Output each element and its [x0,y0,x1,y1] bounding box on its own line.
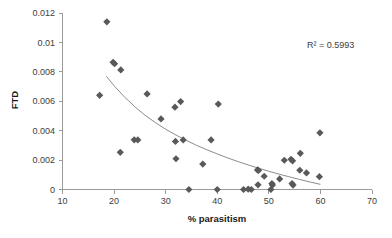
x-tick-label: 60 [315,196,325,206]
data-point [172,155,179,162]
y-tick-label: 0 [50,185,55,195]
trend-line [106,76,320,184]
y-tick-label-group: 00.0020.0040.0060.0080.010.012 [32,8,55,195]
x-axis-title: % parasitism [188,213,247,224]
data-point [254,181,261,188]
data-point [177,98,184,105]
x-tick-label: 70 [367,196,377,206]
plot-area: 00.0020.0040.0060.0080.010.012 102030405… [0,0,392,238]
y-tick-label: 0.006 [32,96,55,106]
y-tick-label: 0.012 [32,8,55,18]
x-tick-label: 40 [212,196,222,206]
data-point [261,173,268,180]
y-axis-title: FTD [9,91,20,110]
data-point [296,167,303,174]
annotation-group: R² = 0.5993 [307,40,354,50]
r-squared-annotation: R² = 0.5993 [307,40,354,50]
data-point [143,90,150,97]
data-point [297,150,304,157]
data-point [215,100,222,107]
data-point [185,186,192,193]
y-tick-label: 0.01 [37,38,55,48]
x-tick-label: 10 [57,196,67,206]
data-point [303,169,310,176]
data-point-group [96,18,323,193]
data-point [171,104,178,111]
data-point [276,175,283,182]
data-point [117,149,124,156]
data-point [103,18,110,25]
data-point [199,160,206,167]
data-point [96,92,103,99]
y-tick-group [59,13,63,190]
y-tick-label: 0.004 [32,126,55,136]
data-point [281,157,288,164]
y-tick-label: 0.008 [32,67,55,77]
data-point [316,129,323,136]
data-point [214,186,221,193]
data-point [157,115,164,122]
data-point [316,173,323,180]
x-tick-label-group: 10203040506070 [57,196,377,206]
data-point [117,66,124,73]
scatter-chart: 00.0020.0040.0060.0080.010.012 102030405… [0,0,392,238]
data-point [207,136,214,143]
data-point [172,138,179,145]
x-tick-label: 20 [109,196,119,206]
x-tick-label: 50 [264,196,274,206]
y-axis: 00.0020.0040.0060.0080.010.012 [32,8,62,195]
y-tick-label: 0.002 [32,155,55,165]
x-tick-label: 30 [161,196,171,206]
